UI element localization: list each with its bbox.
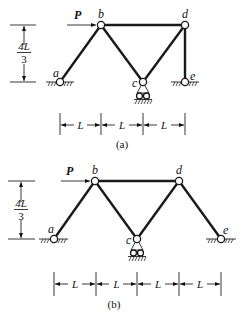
height-dimension-b: 4L 3: [8, 181, 35, 239]
span-label: L: [154, 278, 161, 290]
span-label: L: [160, 119, 167, 131]
caption-b: (b): [108, 298, 121, 311]
node-d: [181, 21, 188, 28]
span-label: L: [76, 119, 83, 131]
node-label-e: e: [223, 223, 229, 237]
height-label-denominator: 3: [18, 210, 24, 222]
node-label-c: c: [132, 76, 138, 90]
load-label: P: [74, 8, 82, 22]
member-bc: [95, 181, 137, 239]
load-label: P: [66, 164, 74, 178]
node-b: [91, 177, 98, 184]
span-dimensions-b: L L L L: [54, 272, 221, 296]
height-dimension-a: 4L 3: [10, 25, 36, 82]
figure-b: 4L 3 P: [8, 163, 236, 311]
node-label-d: d: [182, 7, 189, 21]
node-label-a: a: [53, 66, 59, 80]
span-dimensions-a: L L L: [60, 113, 185, 135]
span-label: L: [112, 278, 119, 290]
figure-a: 4L 3 P: [10, 7, 199, 151]
member-de: [179, 181, 221, 239]
member-cd: [137, 181, 179, 239]
node-b: [97, 21, 104, 28]
member-ab: [54, 181, 95, 239]
load-p-b: P: [61, 164, 90, 181]
member-cd: [143, 25, 185, 82]
node-a: [50, 235, 57, 242]
member-ab: [60, 25, 101, 82]
span-label: L: [118, 119, 125, 131]
node-e: [181, 78, 188, 85]
node-label-a: a: [48, 222, 54, 236]
load-p-a: P: [67, 8, 96, 25]
member-bc: [101, 25, 143, 82]
node-label-c: c: [126, 233, 132, 247]
node-d: [175, 177, 182, 184]
node-label-e: e: [190, 69, 196, 83]
height-label-denominator: 3: [21, 53, 27, 65]
span-label: L: [71, 278, 78, 290]
node-c: [139, 78, 146, 85]
node-label-b: b: [98, 7, 104, 21]
height-label-numerator: 4L: [18, 40, 30, 52]
span-label: L: [196, 278, 203, 290]
height-label-numerator: 4L: [15, 197, 27, 209]
truss-diagrams: 4L 3 P: [0, 0, 247, 320]
node-c: [133, 235, 140, 242]
node-label-b: b: [92, 163, 98, 177]
caption-a: (a): [116, 138, 129, 151]
node-label-d: d: [176, 163, 183, 177]
